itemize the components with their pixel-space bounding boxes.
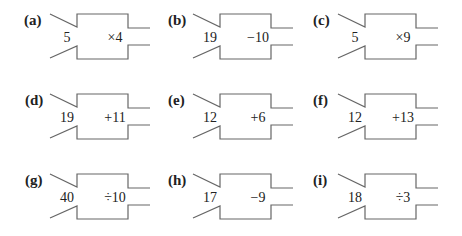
operation: −10 <box>228 30 288 46</box>
function-machine-f: (f) 12 +13 <box>313 82 462 152</box>
input-value: 18 <box>343 190 367 206</box>
function-machine-c: (c) 5 ×9 <box>313 2 462 72</box>
machine-label: (a) <box>24 12 42 29</box>
input-value: 12 <box>198 110 222 126</box>
input-value: 5 <box>343 30 367 46</box>
machine-label: (g) <box>25 172 43 189</box>
machine-label: (i) <box>313 172 327 189</box>
function-machine-b: (b) 19 −10 <box>168 2 318 72</box>
input-value: 5 <box>55 30 79 46</box>
operation: +6 <box>228 110 288 126</box>
input-value: 12 <box>343 110 367 126</box>
function-machine-i: (i) 18 ÷3 <box>313 162 462 232</box>
machine-label: (d) <box>25 92 43 109</box>
input-value: 17 <box>198 190 222 206</box>
function-machine-e: (e) 12 +6 <box>168 82 318 152</box>
machine-label: (f) <box>313 92 328 109</box>
operation: ÷10 <box>85 190 145 206</box>
function-machine-g: (g) 40 ÷10 <box>25 162 175 232</box>
input-value: 40 <box>55 190 79 206</box>
input-value: 19 <box>198 30 222 46</box>
operation: +13 <box>373 110 433 126</box>
function-machine-d: (d) 19 +11 <box>25 82 175 152</box>
machine-label: (e) <box>168 92 185 109</box>
operation: +11 <box>85 110 145 126</box>
function-machine-a: (a) 5 ×4 <box>25 2 175 72</box>
function-machine-h: (h) 17 −9 <box>168 162 318 232</box>
machine-label: (b) <box>168 12 186 29</box>
operation: −9 <box>228 190 288 206</box>
operation: ×9 <box>373 30 433 46</box>
input-value: 19 <box>55 110 79 126</box>
machine-label: (c) <box>313 12 330 29</box>
operation: ×4 <box>85 30 145 46</box>
machine-label: (h) <box>168 172 186 189</box>
operation: ÷3 <box>373 190 433 206</box>
